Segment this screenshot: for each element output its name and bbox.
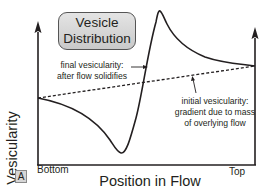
title-box: Vesicle Distribution: [58, 12, 136, 50]
initial-vesicularity-label: initial vesicularity: gradient due to ma…: [150, 96, 272, 129]
y-axis-left: [35, 21, 42, 165]
arrow-up-icon: [35, 21, 42, 33]
title-line-1: Vesicle: [59, 15, 135, 31]
x-tick-bottom: Bottom: [37, 163, 69, 176]
final-label-line-1: final vesicularity:: [42, 60, 142, 71]
panel-letter-badge: A: [15, 170, 27, 183]
initial-label-line-2: gradient due to mass: [150, 107, 272, 118]
initial-pointer-line: [193, 79, 196, 93]
x-tick-top: Top: [229, 165, 245, 178]
arrow-up-icon: [252, 27, 259, 39]
title-line-2: Distribution: [59, 31, 135, 47]
arrow-up-icon: [191, 76, 195, 81]
final-label-line-2: after flow solidifies: [42, 71, 142, 82]
initial-label-line-1: initial vesicularity:: [150, 96, 272, 107]
x-axis-label: Position in Flow: [95, 172, 205, 190]
initial-label-line-3: of overlying flow: [150, 118, 272, 129]
final-vesicularity-label: final vesicularity: after flow solidifie…: [42, 60, 142, 82]
